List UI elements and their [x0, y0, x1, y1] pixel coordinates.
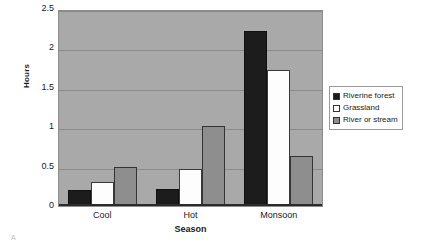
x-axis-line [59, 204, 322, 206]
y-axis-tick-label: 0 [49, 200, 54, 210]
y-axis-tick-label: 1.5 [41, 82, 54, 92]
x-axis-tick-labels: CoolHotMonsoon [58, 210, 323, 224]
bar[interactable] [114, 167, 137, 206]
legend-swatch-icon [333, 105, 340, 112]
bar-chart-figure: Hours 2.521.510.50 CoolHotMonsoon Season… [0, 0, 434, 249]
legend-item[interactable]: Riverine forest [333, 90, 398, 102]
legend-item[interactable]: River or stream [333, 114, 398, 126]
legend-label: Riverine forest [343, 91, 395, 101]
legend-label: Grassland [343, 103, 379, 113]
y-axis-tick-label: 0.5 [41, 161, 54, 171]
bar[interactable] [290, 156, 313, 206]
bar[interactable] [179, 169, 202, 206]
bar-groups [59, 11, 322, 206]
legend-label: River or stream [343, 115, 398, 125]
y-axis-tick-label: 1 [49, 121, 54, 131]
y-axis-tick-labels: 2.521.510.50 [28, 8, 54, 208]
x-axis-tick-label: Cool [58, 210, 146, 224]
plot-area [58, 10, 323, 207]
x-axis-title: Season [58, 224, 323, 234]
legend-swatch-icon [333, 93, 340, 100]
x-axis-tick-label: Monsoon [235, 210, 323, 224]
bar[interactable] [91, 182, 114, 206]
bar-group [234, 11, 322, 206]
legend-item[interactable]: Grassland [333, 102, 398, 114]
bar[interactable] [244, 31, 267, 206]
chart-legend: Riverine forestGrasslandRiver or stream [329, 86, 403, 130]
y-axis-tick-label: 2 [49, 42, 54, 52]
bar-group [59, 11, 147, 206]
x-axis-tick-label: Hot [146, 210, 234, 224]
legend-swatch-icon [333, 117, 340, 124]
y-axis-tick-label: 2.5 [41, 3, 54, 13]
panel-letter: A [11, 234, 16, 241]
bar[interactable] [267, 70, 290, 206]
bar[interactable] [202, 126, 225, 206]
bar-group [147, 11, 235, 206]
